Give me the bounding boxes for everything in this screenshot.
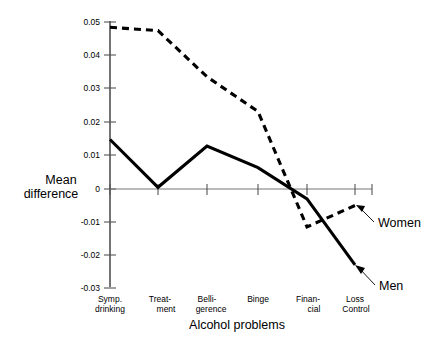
- x-category-label-2-line2: gerence: [196, 304, 227, 314]
- y-tick-label-6: -0.01: [81, 217, 101, 227]
- line-chart: 0.05 0.04 0.03 0.02 0.01 0 -0.01 -0.02 -…: [0, 0, 437, 349]
- x-category-label-0-line2: drinking: [95, 304, 125, 314]
- women-annotation-leader: [356, 205, 374, 222]
- x-category-label-5-line1: Loss: [346, 294, 364, 304]
- y-tick-label-8: -0.03: [81, 283, 101, 293]
- series-label-men: Men: [379, 279, 403, 293]
- chart-container: 0.05 0.04 0.03 0.02 0.01 0 -0.01 -0.02 -…: [0, 0, 437, 349]
- x-category-label-5-line2: Control: [342, 304, 370, 314]
- men-annotation-leader: [355, 265, 375, 285]
- y-tick-label-5: 0: [95, 184, 100, 194]
- y-tick-label-7: -0.02: [81, 250, 101, 260]
- x-category-label-1-line2: ment: [157, 304, 177, 314]
- y-tick-label-4: 0.01: [83, 150, 100, 160]
- x-category-label-1-line1: Treat-: [149, 294, 172, 304]
- x-category-label-2-line1: Belli-: [198, 294, 217, 304]
- y-axis-title-line2: difference: [24, 187, 79, 201]
- y-tick-label-3: 0.02: [83, 117, 100, 127]
- y-tick-label-1: 0.04: [83, 50, 100, 60]
- y-axis-title-line1: Mean: [45, 173, 76, 187]
- x-category-label-4-line1: Finan-: [296, 294, 320, 304]
- y-tick-label-2: 0.03: [83, 83, 100, 93]
- series-label-women: Women: [378, 216, 421, 230]
- y-tick-label-0: 0.05: [83, 17, 100, 27]
- series-women-line: [110, 27, 355, 227]
- series-men-line: [110, 140, 355, 265]
- x-category-label-0-line1: Symp.: [98, 294, 122, 304]
- x-axis-title: Alcohol problems: [189, 318, 285, 332]
- x-category-label-3-line1: Binge: [247, 294, 269, 304]
- x-category-label-4-line2: cial: [308, 304, 321, 314]
- x-category-labels: Symp. drinking Treat- ment Belli- gerenc…: [95, 294, 370, 314]
